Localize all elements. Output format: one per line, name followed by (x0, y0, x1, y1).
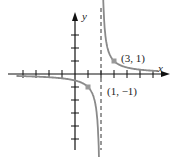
y-axis-label: y (82, 10, 87, 22)
axes (8, 12, 170, 150)
point-label-1-neg1: (1, −1) (107, 85, 137, 97)
point-label-3-1: (3, 1) (121, 52, 145, 64)
graph-plot (0, 0, 175, 157)
x-axis-label: x (158, 62, 163, 74)
